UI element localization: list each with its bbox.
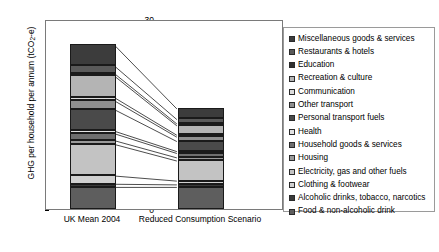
legend-label: Recreation & culture xyxy=(298,74,372,82)
legend-label: Household goods & services xyxy=(298,141,402,149)
legend-label: Alcoholic drinks, tobacco, narcotics xyxy=(298,194,425,202)
legend-label: Education xyxy=(298,61,334,69)
legend-label: Other transport xyxy=(298,101,353,109)
legend-label: Miscellaneous goods & services xyxy=(298,35,415,43)
legend-label: Clothing & footwear xyxy=(298,181,369,189)
legend-label: Housing xyxy=(298,154,328,162)
legend-label: Restaurants & hotels xyxy=(298,48,374,56)
connector-electricity-gas-and-other-fuels xyxy=(115,145,176,161)
legend-swatch-icon xyxy=(289,49,295,55)
legend-item-food-non-alcoholic-drink[interactable]: Food & non-alcoholic drink xyxy=(289,205,431,218)
legend-item-health[interactable]: Health xyxy=(289,125,431,138)
chart-figure: GHG per household per annum (tCO2-e) 051… xyxy=(0,0,439,252)
plot-area xyxy=(45,20,283,210)
legend-swatch-icon xyxy=(289,195,295,201)
legend-label: Electricity, gas and other fuels xyxy=(298,168,407,176)
y-axis-title-pre: GHG per household per annum (tCO xyxy=(26,41,36,180)
legend-item-restaurants-hotels[interactable]: Restaurants & hotels xyxy=(289,45,431,58)
legend-item-alcoholic-drinks-tobacco-narcotics[interactable]: Alcoholic drinks, tobacco, narcotics xyxy=(289,192,431,205)
legend-swatch-icon xyxy=(289,62,295,68)
connector-clothing-footwear xyxy=(115,176,176,181)
legend-item-household-goods-services[interactable]: Household goods & services xyxy=(289,138,431,151)
legend-swatch-icon xyxy=(289,182,295,188)
legend-label: Communication xyxy=(298,88,355,96)
legend-swatch-icon xyxy=(289,155,295,161)
legend-label: Food & non-alcoholic drink xyxy=(298,207,395,215)
legend-swatch-icon xyxy=(289,36,295,42)
legend-swatch-icon xyxy=(289,102,295,108)
connector-restaurants-hotels xyxy=(115,67,176,120)
legend-swatch-icon xyxy=(289,89,295,95)
legend-swatch-icon xyxy=(289,169,295,175)
y-tickmark-0 xyxy=(45,210,49,211)
legend: Miscellaneous goods & servicesRestaurant… xyxy=(283,27,435,212)
connector-health xyxy=(115,132,176,152)
legend-item-education[interactable]: Education xyxy=(289,59,431,72)
y-axis-title-post: -e) xyxy=(26,27,36,37)
legend-item-recreation-culture[interactable]: Recreation & culture xyxy=(289,72,431,85)
legend-item-housing[interactable]: Housing xyxy=(289,152,431,165)
legend-label: Health xyxy=(298,128,322,136)
y-axis-title: GHG per household per annum (tCO2-e) xyxy=(26,8,36,198)
legend-item-personal-transport-fuels[interactable]: Personal transport fuels xyxy=(289,112,431,125)
y-axis-title-sub: 2 xyxy=(29,37,36,41)
legend-swatch-icon xyxy=(289,129,295,135)
legend-item-clothing-footwear[interactable]: Clothing & footwear xyxy=(289,178,431,191)
legend-item-miscellaneous-goods-services[interactable]: Miscellaneous goods & services xyxy=(289,32,431,45)
connector-alcoholic-drinks-tobacco-narcotics xyxy=(115,184,176,185)
legend-swatch-icon xyxy=(289,76,295,82)
bar-uk-mean-2004[interactable] xyxy=(70,44,116,209)
legend-item-other-transport[interactable]: Other transport xyxy=(289,98,431,111)
legend-swatch-icon xyxy=(289,115,295,121)
connector-recreation-culture xyxy=(115,77,176,126)
bar-reduced-consumption-scenario[interactable] xyxy=(178,108,224,209)
connector-other-transport xyxy=(115,101,176,137)
legend-item-communication[interactable]: Communication xyxy=(289,85,431,98)
legend-swatch-icon xyxy=(289,142,295,148)
legend-item-electricity-gas-and-other-fuels[interactable]: Electricity, gas and other fuels xyxy=(289,165,431,178)
legend-swatch-icon xyxy=(289,209,295,215)
x-axis-label-reduced-consumption-scenario: Reduced Consumption Scenario xyxy=(130,214,270,224)
bar-outline xyxy=(70,44,116,209)
legend-label: Personal transport fuels xyxy=(298,114,384,122)
bar-outline xyxy=(178,108,224,209)
